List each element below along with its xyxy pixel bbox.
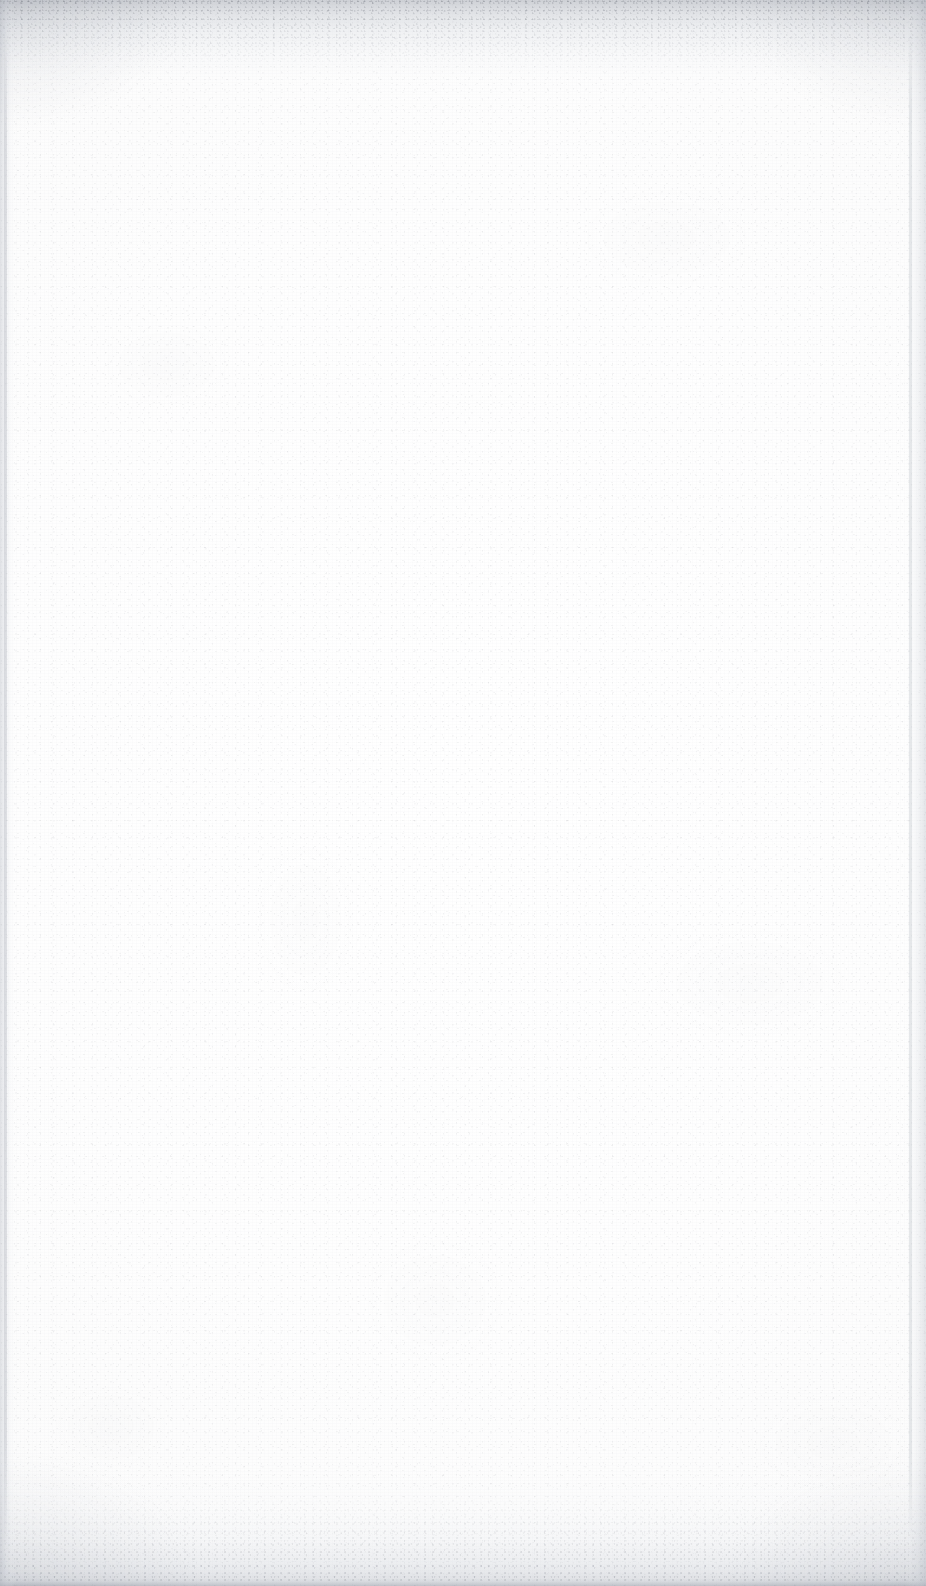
corner-vignette bbox=[0, 0, 926, 1586]
scanned-page bbox=[0, 0, 926, 1586]
